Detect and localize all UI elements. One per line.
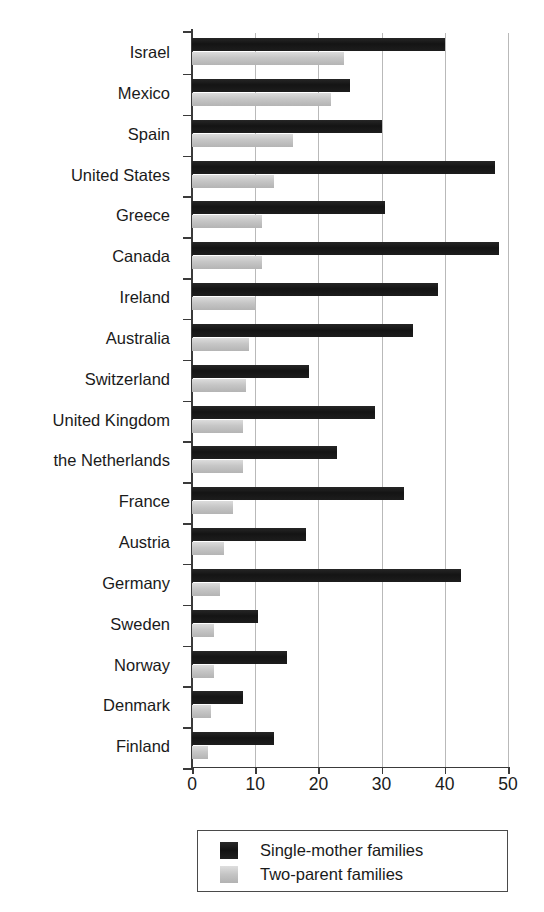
bar-single-mother xyxy=(192,201,385,214)
bar-single-mother xyxy=(192,691,243,704)
y-axis-tick xyxy=(183,686,192,688)
bar-single-mother xyxy=(192,38,445,51)
bar-group xyxy=(192,569,508,596)
y-axis-tick xyxy=(183,482,192,484)
legend-label: Single-mother families xyxy=(260,842,423,859)
x-axis-tick xyxy=(318,767,320,774)
x-axis-tick xyxy=(508,767,510,774)
bar-two-parent xyxy=(192,705,211,718)
x-axis-tick-labels: 01020304050 xyxy=(0,776,544,806)
chart-legend: Single-mother familiesTwo-parent familie… xyxy=(197,830,508,892)
y-axis-category-label: Austria xyxy=(119,534,170,551)
y-axis-tick xyxy=(183,196,192,198)
x-axis-tick-label: 0 xyxy=(187,776,197,794)
bar-single-mother xyxy=(192,120,382,133)
bar-single-mother xyxy=(192,528,306,541)
bar-single-mother xyxy=(192,242,499,255)
bar-two-parent xyxy=(192,256,262,269)
x-axis-tick xyxy=(255,767,257,774)
plot-area xyxy=(192,33,508,768)
y-axis-category-label: Ireland xyxy=(120,289,170,306)
bar-group xyxy=(192,79,508,106)
bar-group xyxy=(192,161,508,188)
y-axis-tick xyxy=(183,727,192,729)
bar-group xyxy=(192,651,508,678)
bar-two-parent xyxy=(192,460,243,473)
x-axis-tick-label: 30 xyxy=(372,776,391,794)
bar-group xyxy=(192,691,508,718)
bar-single-mother xyxy=(192,732,274,745)
bar-two-parent xyxy=(192,297,255,310)
legend-item: Single-mother families xyxy=(220,839,423,861)
y-axis-category-labels: IsraelMexicoSpainUnited StatesGreeceCana… xyxy=(0,33,180,768)
y-axis-tick xyxy=(183,605,192,607)
bar-two-parent xyxy=(192,583,220,596)
bar-group xyxy=(192,120,508,147)
x-axis-tick-label: 40 xyxy=(435,776,454,794)
bar-single-mother xyxy=(192,283,438,296)
bar-single-mother xyxy=(192,365,309,378)
y-axis-tick xyxy=(183,31,192,33)
bar-two-parent xyxy=(192,665,214,678)
bar-group xyxy=(192,487,508,514)
bar-two-parent xyxy=(192,338,249,351)
bar-single-mother xyxy=(192,406,375,419)
bar-single-mother xyxy=(192,487,404,500)
legend-swatch-dark-icon xyxy=(220,842,238,859)
bar-two-parent xyxy=(192,379,246,392)
bar-single-mother xyxy=(192,651,287,664)
y-axis-tick xyxy=(183,401,192,403)
y-axis-category-label: Switzerland xyxy=(85,371,170,388)
y-axis-tick xyxy=(183,564,192,566)
y-axis-category-label: Sweden xyxy=(110,616,170,633)
y-axis-category-label: the Netherlands xyxy=(54,452,171,469)
bar-group xyxy=(192,365,508,392)
x-axis-tick-label: 10 xyxy=(245,776,264,794)
bar-single-mother xyxy=(192,610,258,623)
x-axis-tick xyxy=(382,767,384,774)
y-axis-category-label: Australia xyxy=(106,330,170,347)
y-axis-tick xyxy=(183,523,192,525)
bar-group xyxy=(192,283,508,310)
bar-chart: IsraelMexicoSpainUnited StatesGreeceCana… xyxy=(0,0,544,912)
bar-group xyxy=(192,446,508,473)
bar-single-mother xyxy=(192,569,461,582)
bar-group xyxy=(192,324,508,351)
bar-group xyxy=(192,242,508,269)
y-axis-category-label: Finland xyxy=(116,738,170,755)
bar-two-parent xyxy=(192,624,214,637)
y-axis-tick xyxy=(183,319,192,321)
x-axis-tick-label: 20 xyxy=(309,776,328,794)
y-axis-tick xyxy=(183,768,192,770)
y-axis-tick xyxy=(183,237,192,239)
y-axis-category-label: Mexico xyxy=(118,85,170,102)
bar-two-parent xyxy=(192,93,331,106)
y-axis-tick xyxy=(183,156,192,158)
y-axis-tick xyxy=(183,646,192,648)
bar-two-parent xyxy=(192,542,224,555)
bar-single-mother xyxy=(192,446,337,459)
y-axis-tick xyxy=(183,74,192,76)
bar-single-mother xyxy=(192,79,350,92)
bar-two-parent xyxy=(192,746,208,759)
bar-two-parent xyxy=(192,134,293,147)
bar-two-parent xyxy=(192,215,262,228)
bar-two-parent xyxy=(192,52,344,65)
y-axis-category-label: France xyxy=(119,493,170,510)
y-axis-category-label: Norway xyxy=(114,657,170,674)
bar-two-parent xyxy=(192,501,233,514)
y-axis-category-label: Israel xyxy=(130,44,170,61)
x-axis-line xyxy=(191,767,509,769)
legend-swatch-light-icon xyxy=(220,866,238,883)
y-axis-category-label: Canada xyxy=(112,248,170,265)
x-axis-tick-label: 50 xyxy=(498,776,517,794)
legend-label: Two-parent families xyxy=(260,866,403,883)
bar-group xyxy=(192,528,508,555)
x-axis-tick xyxy=(445,767,447,774)
bar-group xyxy=(192,38,508,65)
bar-two-parent xyxy=(192,175,274,188)
bar-group xyxy=(192,610,508,637)
y-axis-tick xyxy=(183,441,192,443)
bar-single-mother xyxy=(192,161,495,174)
y-axis-tick xyxy=(183,278,192,280)
